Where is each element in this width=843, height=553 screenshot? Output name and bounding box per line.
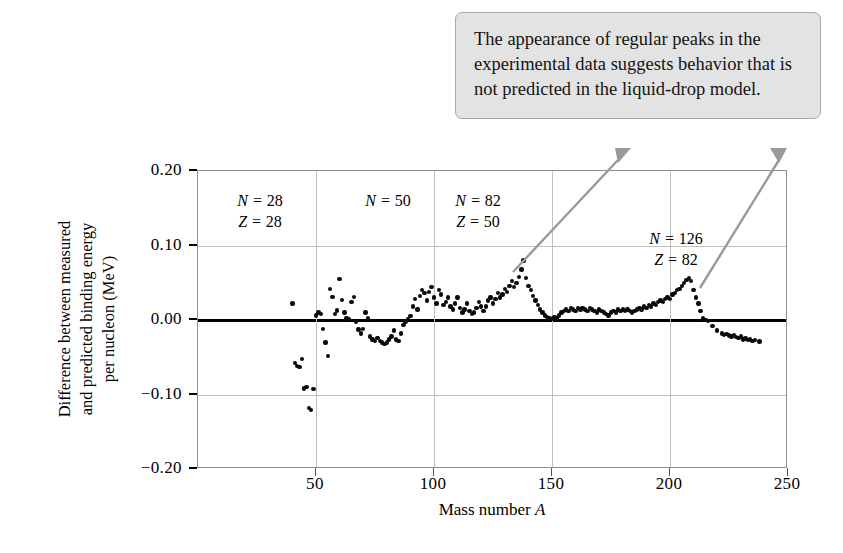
magic-82-annotation: N = 82Z = 50 — [433, 190, 523, 232]
binding-energy-figure: Difference between measured and predicte… — [0, 0, 843, 553]
data-point — [446, 295, 450, 299]
annotation-line: N = 50 — [343, 190, 433, 211]
data-point — [689, 279, 693, 283]
y-tick-label: −0.10 — [108, 385, 182, 402]
gridline-vertical — [670, 171, 671, 467]
annotation-line: Z = 28 — [215, 211, 305, 232]
data-point — [340, 298, 344, 302]
data-point — [389, 334, 393, 338]
data-point — [444, 300, 448, 304]
data-point — [326, 354, 330, 358]
y-tick-label: −0.20 — [108, 459, 182, 476]
data-point — [451, 307, 455, 311]
data-point — [465, 301, 469, 305]
data-point — [529, 288, 533, 292]
x-axis-variable: A — [535, 500, 545, 519]
magic-126-annotation: N = 126Z = 82 — [631, 228, 721, 270]
data-point — [434, 301, 438, 305]
x-tick-label: 50 — [280, 474, 350, 494]
data-point — [698, 309, 702, 313]
data-point — [304, 385, 308, 389]
data-point — [706, 319, 710, 323]
data-point — [510, 279, 514, 283]
data-point — [349, 300, 353, 304]
zero-reference-line — [198, 319, 786, 322]
y-tick-mark — [189, 169, 197, 171]
data-point — [363, 310, 367, 314]
data-point — [319, 312, 323, 316]
data-point — [512, 285, 516, 289]
annotation-line: N = 126 — [631, 228, 721, 249]
data-point — [453, 301, 457, 305]
y-tick-label: 0.20 — [108, 161, 182, 178]
magic-28-annotation: N = 28Z = 28 — [215, 190, 305, 232]
annotation-line: N = 28 — [215, 190, 305, 211]
data-point — [335, 308, 339, 312]
data-point — [354, 319, 358, 323]
data-point — [521, 258, 525, 262]
data-point — [337, 277, 341, 281]
data-point — [300, 357, 304, 361]
data-point — [507, 284, 511, 288]
data-point — [321, 327, 325, 331]
data-point — [297, 365, 301, 369]
data-point — [411, 304, 415, 308]
x-tick-label: 100 — [398, 474, 468, 494]
data-point — [462, 307, 466, 311]
x-axis-title-text: Mass number — [439, 500, 535, 519]
y-tick-label: 0.10 — [108, 236, 182, 253]
data-point — [710, 324, 714, 328]
x-tick-label: 250 — [752, 474, 822, 494]
data-point — [413, 297, 417, 301]
gridline-vertical — [316, 171, 317, 467]
data-point — [519, 267, 523, 271]
data-point — [330, 295, 334, 299]
data-point — [439, 292, 443, 296]
data-point — [757, 339, 761, 343]
data-point — [524, 276, 528, 280]
data-point — [493, 297, 497, 301]
data-point — [359, 331, 363, 335]
data-point — [472, 310, 476, 314]
data-point — [500, 292, 504, 296]
data-point — [491, 301, 495, 305]
data-point — [488, 295, 492, 299]
annotation-line: Z = 82 — [631, 249, 721, 270]
data-point — [481, 309, 485, 313]
data-point — [415, 307, 419, 311]
y-tick-mark — [189, 467, 197, 469]
data-point — [396, 339, 400, 343]
x-tick-label: 150 — [516, 474, 586, 494]
magic-50-annotation: N = 50 — [343, 190, 433, 211]
data-point — [517, 275, 521, 279]
data-point — [474, 306, 478, 310]
y-tick-mark — [189, 393, 197, 395]
annotation-line: Z = 50 — [433, 211, 523, 232]
data-point — [715, 328, 719, 332]
callout-note: The appearance of regular peaks in the e… — [455, 12, 821, 119]
data-point — [328, 287, 332, 291]
data-point — [691, 288, 695, 292]
data-point — [392, 328, 396, 332]
data-point — [422, 291, 426, 295]
annotation-line: N = 82 — [433, 190, 523, 211]
data-point — [342, 310, 346, 314]
x-tick-label: 200 — [634, 474, 704, 494]
data-point — [505, 290, 509, 294]
y-tick-label: 0.00 — [108, 310, 182, 327]
data-point — [399, 331, 403, 335]
x-axis-title: Mass number A — [197, 500, 787, 520]
data-point — [425, 298, 429, 302]
data-point — [668, 297, 672, 301]
data-point — [753, 338, 757, 342]
data-point — [455, 295, 459, 299]
callout-note-text: The appearance of regular peaks in the e… — [474, 29, 792, 99]
data-point — [694, 295, 698, 299]
data-point — [309, 408, 313, 412]
data-point — [514, 281, 518, 285]
data-point — [366, 316, 370, 320]
data-point — [484, 304, 488, 308]
data-point — [432, 295, 436, 299]
gridline-horizontal — [198, 395, 786, 396]
data-point — [361, 327, 365, 331]
